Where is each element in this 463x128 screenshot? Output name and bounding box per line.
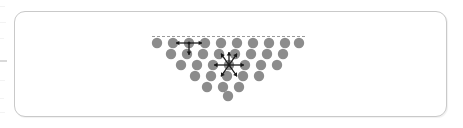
edge-artifact: [0, 112, 5, 113]
edge-artifact: [0, 6, 5, 7]
edge-artifact: [0, 98, 4, 99]
edge-artifact: [0, 22, 6, 23]
figure-root: [0, 0, 463, 128]
edge-artifact: [0, 38, 4, 39]
edge-artifact: [0, 60, 7, 62]
figure-panel: [14, 11, 447, 117]
edge-artifact: [0, 80, 5, 81]
